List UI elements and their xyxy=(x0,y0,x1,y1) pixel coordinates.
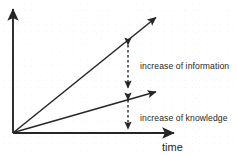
knowledge-trend-line xyxy=(14,92,157,133)
information-trend-line xyxy=(14,18,157,133)
increase-of-information-label: increase of information xyxy=(140,61,229,71)
increase-of-knowledge-label: increase of knowledge xyxy=(140,113,228,123)
diagram-canvas: increase of information increase of know… xyxy=(0,0,237,155)
information-vs-knowledge-diagram: increase of information increase of know… xyxy=(0,0,237,155)
x-axis-label: time xyxy=(162,141,183,153)
